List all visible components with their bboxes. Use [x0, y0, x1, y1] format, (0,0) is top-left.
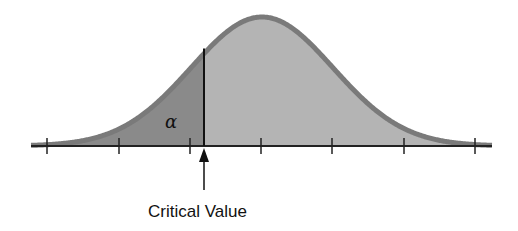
- up-arrow-icon: [199, 148, 209, 162]
- normal-distribution-diagram: α Critical Value: [0, 0, 518, 231]
- critical-value-label: Critical Value: [148, 202, 247, 221]
- alpha-label: α: [165, 111, 177, 132]
